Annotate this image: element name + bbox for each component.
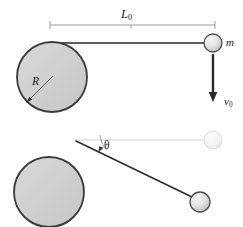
angle-arrowhead-icon [99,146,104,152]
length-dimension-line [50,21,215,29]
string-bottom [76,141,192,197]
physics-diagram: L0 m v0 R θ [0,0,243,227]
velocity-vector [209,54,218,102]
label-angle-theta: θ [104,140,110,152]
top-panel-group [17,21,222,112]
label-mass-m: m [226,37,234,48]
ball-mass-top [204,34,222,52]
ball-mass-bottom [190,192,210,212]
label-length-base: L [121,7,128,21]
label-length-L0: L0 [121,8,132,22]
label-velocity-v0: v0 [224,96,233,109]
label-velocity-subscript: 0 [229,101,233,109]
velocity-arrowhead-icon [209,92,218,102]
label-length-subscript: 0 [128,13,132,22]
label-radius-R: R [32,76,39,88]
diagram-canvas [0,0,243,227]
cylinder-bottom [14,157,84,227]
bottom-panel-group [14,131,222,227]
ball-ghost-original-position [204,131,222,149]
